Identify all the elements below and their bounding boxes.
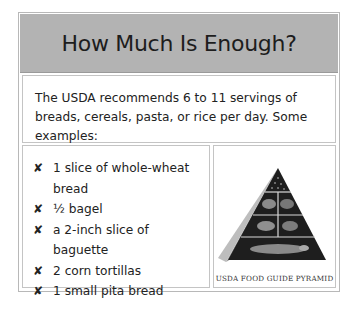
x-mark-icon: ✘ — [33, 158, 53, 199]
figure-caption: USDA FOOD GUIDE PYRAMID — [214, 274, 335, 283]
x-mark-icon: ✘ — [33, 281, 53, 302]
x-mark-icon: ✘ — [33, 199, 53, 220]
examples-list: ✘ 1 slice of whole-wheat bread ✘ ½ bagel… — [23, 146, 209, 302]
list-item: ✘ 2 corn tortillas — [33, 261, 209, 282]
food-guide-pyramid-image — [214, 164, 335, 264]
list-item-label: 1 slice of whole-wheat bread — [53, 158, 209, 199]
list-item-label: ½ bagel — [53, 199, 209, 220]
info-box: How Much Is Enough? The USDA recommends … — [18, 12, 340, 292]
list-item: ✘ ½ bagel — [33, 199, 209, 220]
examples-panel: ✘ 1 slice of whole-wheat bread ✘ ½ bagel… — [22, 145, 210, 288]
x-mark-icon: ✘ — [33, 261, 53, 282]
intro-panel: The USDA recommends 6 to 11 servings of … — [22, 75, 336, 143]
list-item-label: a 2-inch slice of baguette — [53, 220, 209, 261]
x-mark-icon: ✘ — [33, 220, 53, 261]
list-item-label: 2 corn tortillas — [53, 261, 209, 282]
figure-panel: USDA FOOD GUIDE PYRAMID — [213, 145, 336, 288]
list-item: ✘ 1 slice of whole-wheat bread — [33, 158, 209, 199]
list-item-label: 1 small pita bread — [53, 281, 209, 302]
list-item: ✘ a 2-inch slice of baguette — [33, 220, 209, 261]
page-title: How Much Is Enough? — [61, 31, 296, 56]
list-item: ✘ 1 small pita bread — [33, 281, 209, 302]
intro-text: The USDA recommends 6 to 11 servings of … — [35, 91, 307, 143]
header-band: How Much Is Enough? — [20, 14, 338, 73]
